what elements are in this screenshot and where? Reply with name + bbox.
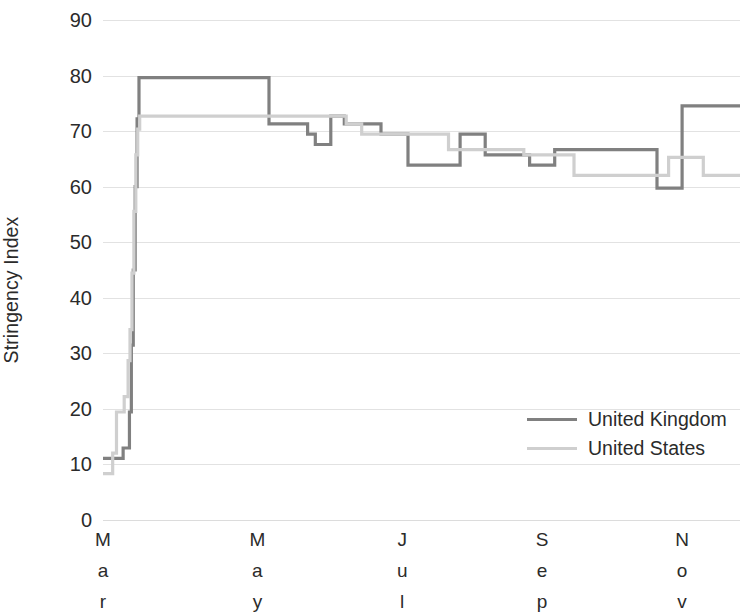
legend-entry-united-kingdom[interactable]: United Kingdom [527,406,727,432]
legend-entry-united-states[interactable]: United States [527,435,727,461]
y-tick-label-40: 40 [48,288,92,308]
y-axis-tick-labels: 9080706050403020100 [46,0,92,616]
y-tick-label-60: 60 [48,177,92,197]
x-tick-char: u [387,555,417,586]
x-tick-label-sep: Sep [527,524,557,616]
y-tick-label-0: 0 [48,510,92,530]
y-tick-label-90: 90 [48,10,92,30]
y-tick-label-70: 70 [48,121,92,141]
gridline-0 [103,520,740,521]
y-tick-label-10: 10 [48,454,92,474]
chart-legend: United KingdomUnited States [527,406,727,461]
y-axis-title: Stringency Index [0,0,40,616]
x-tick-char: l [387,586,417,616]
y-tick-label-80: 80 [48,66,92,86]
x-tick-char: r [88,586,118,616]
legend-label: United Kingdom [588,408,727,430]
x-tick-char: M [242,524,272,555]
x-tick-label-may: May [242,524,272,616]
x-tick-char: a [88,555,118,586]
x-tick-char: p [527,586,557,616]
x-tick-label-jul: Jul [387,524,417,616]
x-tick-char: a [242,555,272,586]
x-tick-char: N [667,524,697,555]
x-tick-label-mar: Mar [88,524,118,616]
x-tick-char: y [242,586,272,616]
x-tick-label-nov: Nov [667,524,697,616]
x-tick-char: o [667,555,697,586]
y-tick-label-50: 50 [48,232,92,252]
legend-line-swatch [527,418,577,421]
x-tick-char: e [527,555,557,586]
x-tick-char: M [88,524,118,555]
x-tick-char: J [387,524,417,555]
legend-line-swatch [527,447,577,450]
y-axis-title-text: Stringency Index [0,217,23,364]
legend-label: United States [588,437,705,459]
x-tick-char: S [527,524,557,555]
stringency-index-line-chart: Stringency Index 9080706050403020100 Mar… [0,0,754,616]
x-tick-char: v [667,586,697,616]
y-tick-label-30: 30 [48,343,92,363]
y-tick-label-20: 20 [48,399,92,419]
